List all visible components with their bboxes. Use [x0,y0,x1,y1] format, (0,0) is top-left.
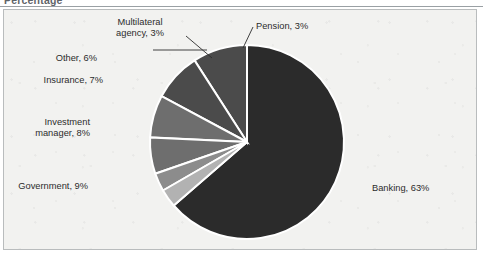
pie-label-multilateral-agency: Multilateralagency, 3% [90,17,190,40]
pie-label-government: Government, 9% [0,181,88,192]
pie-label-line: agency, 3% [90,28,190,39]
pie-label-insurance: Insurance, 7% [0,75,103,86]
pie-label-investment-manager: Investmentmanager, 8% [0,117,90,140]
pie-label-line: Investment [0,117,90,128]
pie-label-line: Multilateral [90,17,190,28]
pie-label-pension: Pension, 3% [256,21,308,32]
pie-chart-figure: Percentage Banking, 63%Government, 9%Inv… [0,0,483,263]
pie-slices-group [150,45,344,239]
pie-label-other: Other, 6% [0,53,97,64]
pie-label-line: manager, 8% [0,128,90,139]
pie-label-banking: Banking, 63% [372,183,429,194]
